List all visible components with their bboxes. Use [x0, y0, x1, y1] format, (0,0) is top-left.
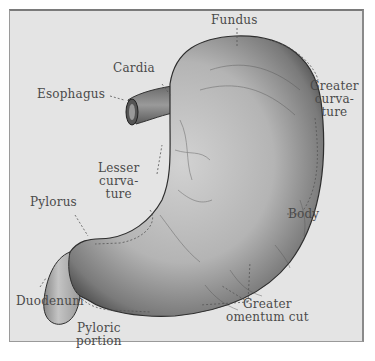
label-cardia: Cardia: [113, 62, 155, 75]
label-greater-curvature-line3: ture: [310, 106, 359, 119]
label-greater-omentum-cut: Greater omentum cut: [226, 298, 309, 324]
label-pylorus: Pylorus: [30, 196, 77, 209]
label-esophagus: Esophagus: [37, 88, 105, 101]
label-greater-omentum-line2: omentum cut: [226, 311, 309, 324]
label-fundus: Fundus: [211, 14, 258, 27]
label-lesser-curvature: Lesser curva- ture: [98, 162, 139, 201]
label-duodenum: Duodenum: [16, 295, 84, 308]
label-greater-curvature: Greater curva- ture: [310, 80, 359, 119]
label-pyloric-portion: Pyloric portion: [76, 322, 122, 348]
label-lesser-curvature-line3: ture: [98, 188, 139, 201]
label-body: Body: [288, 208, 319, 221]
label-pyloric-portion-line2: portion: [76, 335, 122, 348]
